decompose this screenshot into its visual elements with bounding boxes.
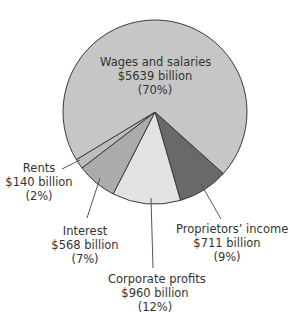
corporate-profits-value: $960 billion [108,286,202,300]
corporate-profits-leader-line [151,198,153,268]
rents-value: $140 billion [4,175,74,189]
corporate-profits-percent: (12%) [108,300,202,314]
interest-percent: (7%) [50,252,120,266]
rents-percent: (2%) [4,189,74,203]
interest-value: $568 billion [50,238,120,252]
rents-name: Rents [4,161,74,175]
corporate-profits-name: Corporate profits [108,272,202,286]
proprietors-name: Proprietors’ income [176,222,278,236]
wages-percent: (70%) [100,83,210,97]
proprietors-leader-line [201,184,221,219]
corporate-profits-label: Corporate profits $960 billion (12%) [108,272,202,314]
wages-label: Wages and salaries $5639 billion (70%) [100,55,210,97]
proprietors-percent: (9%) [176,250,278,264]
wages-name: Wages and salaries [100,55,210,69]
interest-label: Interest $568 billion (7%) [50,224,120,266]
wages-value: $5639 billion [100,69,210,83]
interest-name: Interest [50,224,120,238]
pie-chart [0,0,290,316]
proprietors-label: Proprietors’ income $711 billion (9%) [176,222,278,264]
rents-label: Rents $140 billion (2%) [4,161,74,203]
proprietors-value: $711 billion [176,236,278,250]
interest-leader-line [87,178,100,218]
pie-slices [63,20,247,204]
